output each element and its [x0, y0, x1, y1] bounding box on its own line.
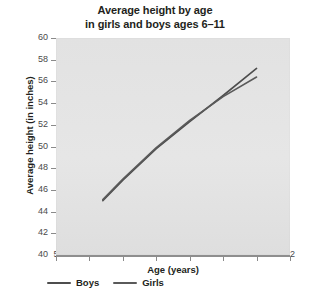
- chart-legend: BoysGirls: [47, 278, 164, 288]
- y-tick-label: 58: [26, 54, 48, 64]
- series-lines: [56, 38, 290, 255]
- x-tick-mark: [290, 256, 291, 261]
- x-axis-title: Age (years): [56, 264, 290, 275]
- legend-line-icon: [113, 282, 137, 284]
- y-tick-label: 40: [26, 249, 48, 259]
- y-tick-label: 60: [26, 32, 48, 42]
- legend-label: Girls: [142, 278, 164, 288]
- legend-line-icon: [47, 282, 71, 284]
- x-axis-line: [56, 255, 290, 257]
- chart-title: Average height by age in girls and boys …: [0, 4, 310, 31]
- chart-title-line-1: Average height by age: [98, 4, 213, 16]
- chart-title-line-2: in girls and boys ages 6–11: [0, 18, 310, 32]
- y-tick-label: 54: [26, 97, 48, 107]
- y-tick-label: 52: [26, 119, 48, 129]
- series-line-girls: [103, 77, 257, 200]
- series-line-boys: [103, 68, 257, 200]
- y-tick-label: 48: [26, 162, 48, 172]
- legend-entry-girls[interactable]: Girls: [113, 278, 164, 288]
- chart-figure: Average height by age in girls and boys …: [0, 0, 310, 300]
- legend-label: Boys: [76, 278, 99, 288]
- plot-area: [56, 38, 290, 255]
- y-tick-label: 46: [26, 184, 48, 194]
- y-tick-label: 42: [26, 227, 48, 237]
- legend-entry-boys[interactable]: Boys: [47, 278, 99, 288]
- y-tick-label: 50: [26, 141, 48, 151]
- y-tick-label: 56: [26, 75, 48, 85]
- y-tick-label: 44: [26, 206, 48, 216]
